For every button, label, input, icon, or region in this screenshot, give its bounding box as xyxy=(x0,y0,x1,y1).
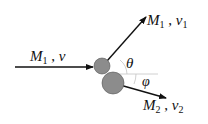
ball-m1 xyxy=(94,58,110,74)
incoming-label: M1 , v xyxy=(29,48,66,66)
outgoing-2-label: M2 , v2 xyxy=(142,97,183,115)
outgoing-1-label: M1 , v1 xyxy=(146,12,187,30)
phi-label: φ xyxy=(142,74,150,89)
collision-diagram: M1 , v M1 , v1 M2 , v2 θ φ xyxy=(0,0,208,124)
phi-arc xyxy=(134,74,136,84)
theta-label: θ xyxy=(126,55,134,71)
ball-m2 xyxy=(102,72,124,94)
